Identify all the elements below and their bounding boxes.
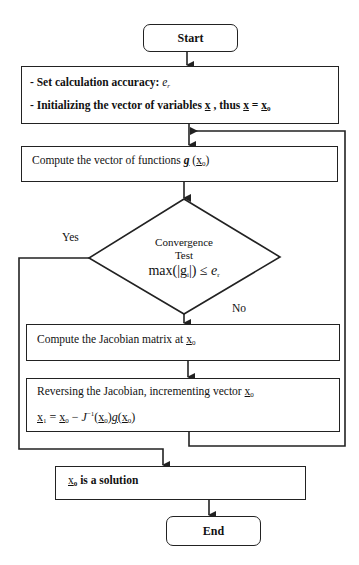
decision-line1: Convergence xyxy=(124,236,244,249)
init-vector-text: - Initializing the vector of variables xyxy=(30,99,205,111)
init-line-vector: - Initializing the vector of variables x… xyxy=(30,96,338,119)
jacobian-text: Compute the Jacobian matrix at x0 xyxy=(37,330,339,353)
func-g: g xyxy=(184,154,190,166)
subscript: 0 xyxy=(192,339,196,347)
start-label: Start xyxy=(178,31,204,46)
newton-update-formula: x1 = x0 − J−1(x0)g(x0) xyxy=(37,405,339,431)
init-accuracy-text: - Set calculation accuracy: xyxy=(30,76,162,88)
compute-functions-text: Compute the vector of functions g (x0) xyxy=(32,151,337,174)
decision-line2: Test xyxy=(124,249,244,262)
paren: ) xyxy=(205,154,209,166)
yes-label: Yes xyxy=(62,231,79,243)
solution-text: x0 is a solution xyxy=(68,471,305,494)
end-label: End xyxy=(203,524,224,539)
end-terminal: End xyxy=(166,516,261,546)
init-process-box: - Set calculation accuracy: er - Initial… xyxy=(21,66,339,124)
jacobian-box: Compute the Jacobian matrix at x0 xyxy=(26,324,340,361)
accuracy-symbol: er xyxy=(162,76,170,88)
compute-functions-box: Compute the vector of functions g (x0) xyxy=(21,146,338,182)
convergence-formula: max(|gi|) ≤ er xyxy=(124,262,244,284)
thus-text: , thus xyxy=(211,99,244,111)
subscript: 0 xyxy=(250,391,254,399)
update-label: Reversing the Jacobian, incrementing vec… xyxy=(37,385,245,397)
no-label: No xyxy=(232,302,246,314)
start-terminal: Start xyxy=(143,24,238,52)
init-line-accuracy: - Set calculation accuracy: er xyxy=(30,73,338,96)
decision-text: Convergence Test max(|gi|) ≤ er xyxy=(124,236,244,284)
solution-label: is a solution xyxy=(77,474,138,486)
equals: = xyxy=(249,99,261,111)
subscript: 0 xyxy=(267,105,271,113)
compute-label: Compute the vector of functions xyxy=(32,154,184,166)
update-box: Reversing the Jacobian, incrementing vec… xyxy=(26,378,340,432)
solution-box: x0 is a solution xyxy=(55,466,306,500)
jacobian-label: Compute the Jacobian matrix at xyxy=(37,333,186,345)
update-line1: Reversing the Jacobian, incrementing vec… xyxy=(37,382,339,405)
